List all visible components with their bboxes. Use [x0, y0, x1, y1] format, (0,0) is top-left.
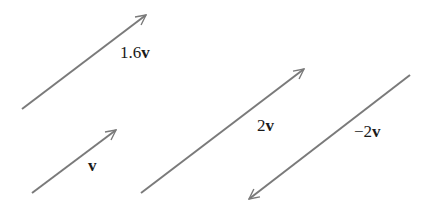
arrow-v: [32, 130, 116, 193]
label-coefficient: 2: [257, 116, 266, 135]
label-vector-symbol: v: [141, 43, 150, 62]
label-1-6v: 1.6v: [120, 44, 150, 61]
label-2v: 2v: [257, 117, 274, 134]
arrow-1-6v: [22, 15, 146, 109]
label-vector-symbol: v: [372, 122, 381, 141]
label-vector-symbol: v: [88, 156, 97, 175]
label-coefficient: 1.6: [120, 43, 141, 62]
label-coefficient: −2: [354, 122, 372, 141]
vector-arrows: [0, 0, 429, 211]
label-vector-symbol: v: [266, 116, 275, 135]
label-neg-2v: −2v: [354, 123, 381, 140]
vector-scaling-diagram: 1.6v v 2v −2v: [0, 0, 429, 211]
label-v: v: [88, 157, 97, 174]
